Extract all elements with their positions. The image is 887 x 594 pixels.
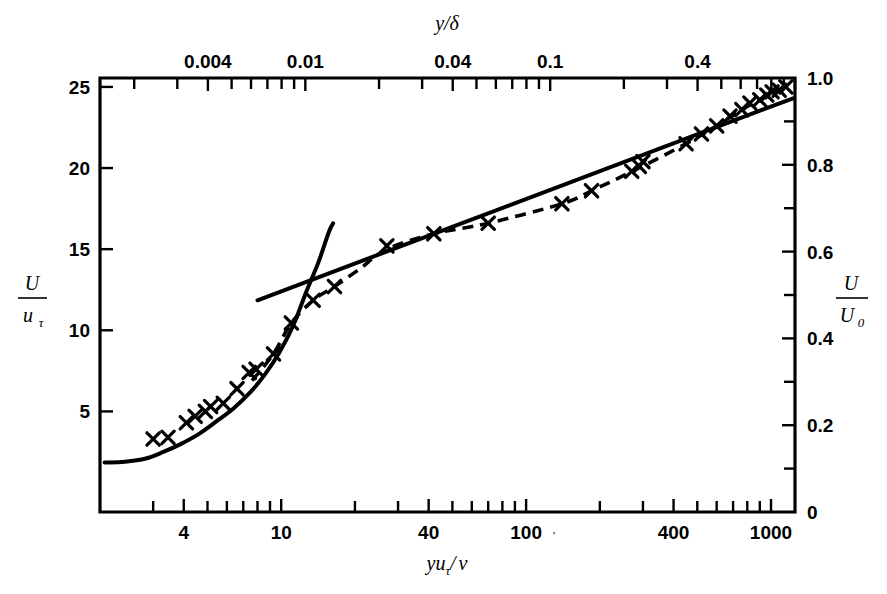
right-axis-tick-label: 0.2 xyxy=(807,415,833,436)
left-axis-ticks xyxy=(100,87,113,411)
top-axis-tick-label: 0.1 xyxy=(537,51,564,72)
bottom-axis-tick-label: 100 xyxy=(510,522,542,543)
right-axis-ticks xyxy=(782,121,795,468)
top-axis-tick-label: 0.4 xyxy=(684,51,711,72)
data-point-marker xyxy=(204,400,216,412)
xlabel-nu: ν xyxy=(459,552,468,574)
bottom-axis-title-text: yuτ/ν xyxy=(425,552,468,578)
bottom-axis-tick-label: 40 xyxy=(418,522,439,543)
bottom-axis-tick-label: 10 xyxy=(271,522,292,543)
right-axis-tick-label: 0.4 xyxy=(807,328,834,349)
top-axis-tick-label: 0.004 xyxy=(184,51,232,72)
stray-ink-mark: ' xyxy=(553,530,555,542)
right-axis-title-denominator-sub: 0 xyxy=(858,315,865,330)
top-axis-tick-label: 0.01 xyxy=(287,51,324,72)
left-axis-tick-label: 5 xyxy=(79,401,90,422)
top-axis-tick-labels: 0.0040.010.040.10.4 xyxy=(184,51,711,72)
top-axis-tick-label: 0.04 xyxy=(434,51,471,72)
right-axis-tick-label: 0 xyxy=(807,502,818,523)
right-axis-tick-label: 0.8 xyxy=(807,155,833,176)
xlabel-u: u xyxy=(435,552,445,574)
data-point-marker xyxy=(585,185,597,197)
stray-mark-glyph: ' xyxy=(553,530,555,542)
left-axis-title: U u τ xyxy=(18,272,47,330)
viscous-sublayer-curve xyxy=(105,223,334,462)
velocity-profile-chart: 0.0040.010.040.10.4 410401004001000 2520… xyxy=(0,0,887,594)
xlabel-slash: / xyxy=(449,552,458,574)
xlabel-y: y xyxy=(425,552,436,575)
data-point-marker xyxy=(217,397,229,409)
left-axis-title-denominator-sub: τ xyxy=(39,315,45,330)
right-axis-tick-labels: 1.00.80.60.40.20 xyxy=(807,68,834,523)
top-axis-title-text: y/δ xyxy=(433,12,459,35)
left-axis-tick-label: 25 xyxy=(69,77,91,98)
left-axis-tick-label: 15 xyxy=(69,239,91,260)
data-point-marker xyxy=(231,382,243,394)
right-axis-title: U U 0 xyxy=(836,272,868,330)
data-point-marker xyxy=(162,431,174,443)
top-axis-title: y/δ xyxy=(433,12,459,35)
data-point-marker xyxy=(328,280,340,292)
left-axis-title-denominator: u xyxy=(23,304,33,326)
top-axis-ticks xyxy=(134,78,795,91)
data-point-marker xyxy=(307,294,319,306)
figure-container: 0.0040.010.040.10.4 410401004001000 2520… xyxy=(0,0,887,594)
bottom-axis-title: yuτ/ν xyxy=(425,552,468,578)
bottom-axis-tick-labels: 410401004001000 xyxy=(178,522,792,543)
bottom-axis-ticks xyxy=(153,499,771,512)
bottom-axis-tick-label: 4 xyxy=(178,522,189,543)
right-axis-tick-label: 0.6 xyxy=(807,242,833,263)
left-axis-tick-label: 10 xyxy=(69,320,90,341)
data-point-marker xyxy=(637,155,649,167)
bottom-axis-tick-label: 1000 xyxy=(750,522,792,543)
bottom-axis-tick-label: 400 xyxy=(658,522,690,543)
left-axis-tick-labels: 252015105 xyxy=(69,77,91,422)
data-layer xyxy=(105,81,793,463)
right-axis-tick-label: 1.0 xyxy=(807,68,833,89)
right-axis-title-denominator: U xyxy=(840,304,856,326)
left-axis-tick-label: 20 xyxy=(69,158,90,179)
data-point-marker xyxy=(147,433,159,445)
left-axis-title-numerator: U xyxy=(25,272,41,294)
right-axis-title-numerator: U xyxy=(844,272,860,294)
